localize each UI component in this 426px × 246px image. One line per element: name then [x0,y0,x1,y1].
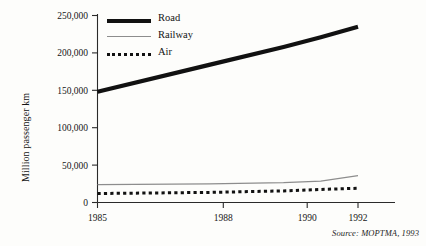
y-axis-title: Million passenger km [20,93,31,182]
y-tick-label-200000: 200,000 [57,48,88,58]
legend-swatch-road-icon [107,13,151,25]
legend-swatch-railway-icon [107,30,151,42]
chart-figure: 0 50,000 100,000 150,000 200,000 250,000… [0,0,426,246]
x-tick-label-1990: 1990 [298,213,317,223]
series-line-air [98,188,359,193]
y-tick-label-50000: 50,000 [62,161,88,171]
y-tick-label-150000: 150,000 [57,86,88,96]
legend-item-road: Road [107,10,193,27]
x-tick-label-1985: 1985 [88,213,107,223]
y-axis-ticks [92,16,98,203]
legend-item-air: Air [107,44,193,61]
legend-label-railway: Railway [158,30,193,41]
legend-swatch-air-icon [107,47,151,59]
x-tick-label-1988: 1988 [214,213,233,223]
chart-legend: Road Railway Air [107,10,193,61]
source-note: Source: MOPTMA, 1993 [332,228,419,238]
x-axis-ticks [98,203,359,209]
series-line-railway [98,176,359,185]
legend-label-air: Air [158,47,172,58]
y-tick-label-100000: 100,000 [57,123,88,133]
legend-item-railway: Railway [107,27,193,44]
y-tick-label-250000: 250,000 [57,11,88,21]
legend-label-road: Road [158,13,180,24]
x-tick-label-1992: 1992 [349,213,368,223]
line-chart-plot: 0 50,000 100,000 150,000 200,000 250,000… [0,0,426,246]
y-tick-label-0: 0 [83,198,88,208]
